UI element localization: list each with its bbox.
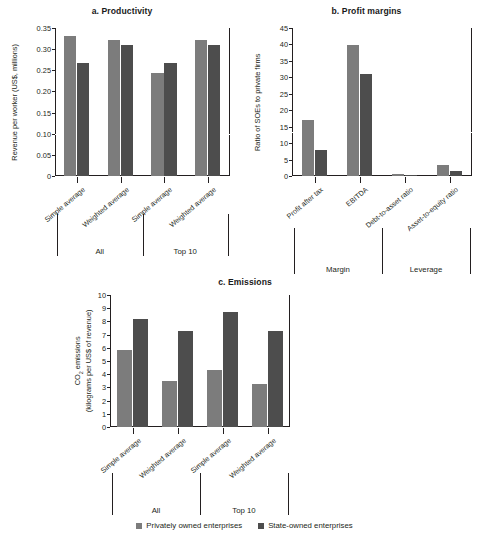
bar-a-3-private <box>195 40 207 176</box>
panel-b-group-separator <box>470 228 471 274</box>
panel-b-y-axis <box>292 28 293 176</box>
panel-a-group-separator <box>57 214 58 256</box>
panel-b-y-tick <box>289 44 292 45</box>
panel-b-group-separator <box>382 228 383 274</box>
panel-c-y-tick <box>107 374 110 375</box>
bar-a-2-soe <box>164 63 176 176</box>
bar-a-1-private <box>108 40 120 176</box>
panel-a-y-tick <box>52 28 55 29</box>
panel-c-category-tick <box>133 428 134 434</box>
legend-item-soe: State-owned enterprises <box>258 521 353 530</box>
panel-c-y-tick-label: 8 <box>102 317 106 326</box>
bar-b-3-soe <box>450 171 462 176</box>
panel-a-group-label: Top 10 <box>174 247 197 256</box>
panel-b-y-tick-label: 20 <box>280 106 288 115</box>
bar-b-0-private <box>302 120 314 176</box>
panel-b-y-tick-label: 0 <box>284 172 288 181</box>
panel-a-category-label: Weighted average <box>168 185 218 229</box>
panel-c-title: c. Emissions <box>60 277 430 287</box>
panel-c-y-tick <box>107 335 110 336</box>
panel-b-y-tick-label: 40 <box>280 40 288 49</box>
panel-b-y-tick-label: 15 <box>280 122 288 131</box>
panel-emissions: c. Emissions CO2 emissions (kilograms pe… <box>60 277 430 512</box>
bar-a-0-soe <box>77 63 89 176</box>
panel-b-group-label: Margin <box>326 265 350 274</box>
panel-a-category-label: Simple average <box>130 185 174 224</box>
panel-c-y-tick <box>107 348 110 349</box>
panel-b-y-tick-label: 25 <box>280 89 288 98</box>
panel-c-y-tick-label: 6 <box>102 343 106 352</box>
panel-c-group-label: All <box>152 506 161 515</box>
panel-c-group-separator <box>288 473 289 515</box>
panel-c-y-axis-title: CO2 emissions (kilograms per US$ of reve… <box>74 296 94 426</box>
panel-c-y-tick <box>107 361 110 362</box>
legend-label-soe: State-owned enterprises <box>268 521 353 530</box>
panel-c-y-axis <box>110 295 111 427</box>
panel-a-y-tick <box>52 113 55 114</box>
panel-c-y-tick-label: 5 <box>102 357 106 366</box>
panel-a-y-tick-label: 0.15 <box>37 108 51 117</box>
panel-c-y-tick-label: 3 <box>102 383 106 392</box>
bar-c-2-soe <box>223 312 238 427</box>
panel-c-y-tick <box>107 427 110 428</box>
panel-b-category-tick <box>360 177 361 183</box>
panel-a-y-tick-label: 0.10 <box>37 129 51 138</box>
bar-c-1-soe <box>178 331 193 427</box>
panel-c-right-axis <box>289 295 290 427</box>
panel-a-category-label: Simple average <box>43 185 87 224</box>
panel-c-category-label: Simple average <box>188 436 232 475</box>
bar-a-2-private <box>151 73 163 176</box>
bar-c-3-soe <box>268 331 283 427</box>
panel-b-y-tick-label: 45 <box>280 24 288 33</box>
panel-b-y-tick <box>289 143 292 144</box>
bar-b-1-soe <box>360 74 372 176</box>
panel-a-group-label: All <box>95 247 104 256</box>
panel-a-category-tick <box>208 177 209 183</box>
panel-c-y-tick-label: 1 <box>102 409 106 418</box>
panel-a-y-tick <box>52 49 55 50</box>
panel-b-category-tick <box>450 177 451 183</box>
panel-b-y-tick <box>289 176 292 177</box>
panel-b-y-tick <box>289 61 292 62</box>
panel-a-y-tick <box>52 176 55 177</box>
panel-c-group-label: Top 10 <box>232 506 255 515</box>
panel-a-category-tick <box>77 177 78 183</box>
panel-c-y-tick-label: 9 <box>102 304 106 313</box>
bar-b-1-private <box>347 45 359 176</box>
panel-b-y-tick <box>289 94 292 95</box>
panel-c-plot-area: 012345678910Simple averageWeighted avera… <box>110 295 290 427</box>
panel-c-category-tick <box>178 428 179 434</box>
panel-a-y-tick-label: 0.05 <box>37 150 51 159</box>
panel-a-y-axis <box>55 28 56 176</box>
panel-b-category-tick <box>405 177 406 183</box>
panel-c-group-separator <box>200 473 201 515</box>
panel-c-y-tick <box>107 387 110 388</box>
legend-label-private: Privately owned enterprises <box>146 521 242 530</box>
panel-c-category-tick <box>223 428 224 434</box>
panel-productivity: a. Productivity Revenue per worker (US$,… <box>0 6 244 268</box>
bar-c-0-private <box>117 350 132 427</box>
panel-b-y-tick <box>289 127 292 128</box>
figure-root: a. Productivity Revenue per worker (US$,… <box>0 0 489 543</box>
legend: Privately owned enterprises State-owned … <box>0 521 489 530</box>
panel-c-y-tick-label: 7 <box>102 330 106 339</box>
panel-a-y-tick <box>52 155 55 156</box>
panel-a-group-separator <box>228 214 229 256</box>
panel-b-y-tick-label: 5 <box>284 155 288 164</box>
panel-b-y-tick <box>289 160 292 161</box>
bar-a-3-soe <box>208 45 220 176</box>
panel-a-category-tick <box>121 177 122 183</box>
bar-c-2-private <box>207 370 222 427</box>
panel-a-y-tick-label: 0.35 <box>37 24 51 33</box>
bar-b-2-private <box>392 174 404 176</box>
bar-a-0-private <box>64 36 76 176</box>
legend-item-private: Privately owned enterprises <box>136 521 242 530</box>
panel-c-group-separator <box>112 473 113 515</box>
panel-b-y-tick-label: 30 <box>280 73 288 82</box>
panel-b-right-axis <box>471 28 472 176</box>
bar-a-1-soe <box>121 45 133 176</box>
panel-b-title: b. Profit margins <box>244 6 489 16</box>
panel-c-category-label: Weighted average <box>137 436 187 480</box>
bar-b-0-soe <box>315 150 327 176</box>
panel-b-gridline <box>292 132 472 133</box>
